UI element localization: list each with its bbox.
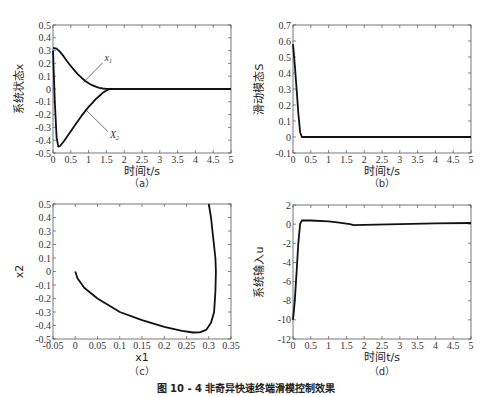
y-tick-label: -0.2 <box>35 293 51 304</box>
y-tick-label: -0.1 <box>275 148 291 159</box>
y-tick-label: -0.1 <box>35 96 51 107</box>
y-tick-label: 0.4 <box>279 68 292 79</box>
figure-caption: 图 10 - 4 非奇异快速终端滑模控制效果 <box>0 380 492 395</box>
y-tick-label: 0 <box>46 266 51 277</box>
y-tick-label: 0.6 <box>279 36 292 47</box>
y-tick-label: -0.4 <box>35 320 51 331</box>
y-tick-label: 0 <box>46 84 51 95</box>
y-tick-label: -12 <box>278 334 291 345</box>
y-tick-label: 0.2 <box>279 100 292 111</box>
x-tick-label: 0.3 <box>203 340 216 351</box>
y-tick-label: -0.5 <box>35 148 51 159</box>
x-tick-label: 4.5 <box>207 154 220 165</box>
x-tick-label: 1.5 <box>340 340 353 351</box>
x-tick-label: 3.5 <box>411 154 424 165</box>
y-tick-label: -0.3 <box>35 122 51 133</box>
series-u <box>293 220 471 320</box>
x-tick-label: 5 <box>469 154 474 165</box>
x-tick-label: 1 <box>326 340 331 351</box>
plot-frame <box>293 25 471 153</box>
y-tick-label: -6 <box>283 276 291 287</box>
y-tick-label: 0.2 <box>39 58 52 69</box>
y-axis-label: 滑动模态S <box>253 63 266 114</box>
x-tick-label: 2.5 <box>376 154 389 165</box>
y-tick-label: -8 <box>283 295 291 306</box>
x-tick-label: 4.5 <box>447 340 460 351</box>
x-tick-label: 2 <box>122 154 127 165</box>
x-axis-label: 时间t/s <box>364 351 400 364</box>
chart-c: -0.0500.050.10.150.20.250.30.35-0.5-0.4-… <box>13 199 240 378</box>
y-tick-label: 0.1 <box>39 253 52 264</box>
chart-a: 00.511.522.533.544.55-0.5-0.4-0.3-0.2-0.… <box>12 20 234 190</box>
y-tick-label: 0.3 <box>279 84 292 95</box>
x-axis-label: x1 <box>135 351 149 364</box>
figure-canvas: 00.511.522.533.544.55-0.5-0.4-0.3-0.2-0.… <box>0 0 492 397</box>
x-tick-label: 0 <box>291 340 296 351</box>
series-x1 <box>53 48 231 89</box>
y-tick-label: 0.1 <box>279 116 292 127</box>
x-tick-label: 0 <box>291 154 296 165</box>
x-tick-label: 0.2 <box>158 340 171 351</box>
x-tick-label: 4 <box>193 154 198 165</box>
annotation-label: X2 <box>109 129 119 141</box>
chart-b: 00.511.522.533.544.55-0.100.10.20.30.40.… <box>253 20 474 190</box>
x-tick-label: 0.15 <box>133 340 151 351</box>
subplot-label: （d） <box>369 366 395 377</box>
x-tick-label: 5 <box>469 340 474 351</box>
chart-d: 00.511.522.533.544.55-12-10-8-6-4-202时间t… <box>252 200 474 378</box>
y-tick-label: -0.5 <box>35 334 51 345</box>
y-tick-label: 0.5 <box>39 20 52 31</box>
x-tick-label: 3.5 <box>171 154 184 165</box>
subplot-label: （a） <box>129 178 155 189</box>
y-axis-label: 系统输入u <box>252 247 266 298</box>
annotation-leader <box>83 63 102 83</box>
x-tick-label: 5 <box>229 154 234 165</box>
x-tick-label: 4 <box>433 154 438 165</box>
y-tick-label: 0.3 <box>39 45 52 56</box>
x-tick-label: 0.05 <box>89 340 107 351</box>
annotation-label: x1 <box>104 52 112 64</box>
y-tick-label: -0.4 <box>35 135 51 146</box>
subplot-label: （c） <box>129 366 155 377</box>
y-tick-label: 0.5 <box>39 199 52 210</box>
y-tick-label: 0.1 <box>39 71 52 82</box>
y-tick-label: -0.3 <box>35 307 51 318</box>
x-tick-label: 4 <box>433 340 438 351</box>
x-tick-label: 3 <box>397 340 402 351</box>
x-tick-label: 3.5 <box>411 340 424 351</box>
x-tick-label: 0 <box>73 340 78 351</box>
x-axis-label: 时间t/s <box>364 165 400 178</box>
x-tick-label: 2.5 <box>136 154 149 165</box>
y-tick-label: -2 <box>283 238 291 249</box>
x-tick-label: 0.1 <box>114 340 127 351</box>
y-tick-label: 0.7 <box>279 20 292 31</box>
y-tick-label: 2 <box>286 200 291 211</box>
x-tick-label: 3 <box>397 154 402 165</box>
x-tick-label: 1.5 <box>340 154 353 165</box>
y-tick-label: 0.4 <box>39 212 52 223</box>
y-tick-label: -10 <box>278 314 291 325</box>
x-tick-label: 1.5 <box>100 154 113 165</box>
x-axis-label: 时间t/s <box>124 165 160 178</box>
series-X2 <box>53 51 231 147</box>
x-tick-label: 1 <box>86 154 91 165</box>
x-tick-label: 2 <box>362 340 367 351</box>
y-tick-label: 0.3 <box>39 226 52 237</box>
x-tick-label: 0 <box>51 154 56 165</box>
y-axis-label: x2 <box>13 265 26 279</box>
x-tick-label: 2 <box>362 154 367 165</box>
y-tick-label: 0.5 <box>279 52 292 63</box>
x-tick-label: 1 <box>326 154 331 165</box>
series-S <box>293 44 471 137</box>
y-tick-label: -4 <box>283 257 291 268</box>
y-tick-label: -0.2 <box>35 109 51 120</box>
y-tick-label: -0.1 <box>35 280 51 291</box>
x-tick-label: 0.5 <box>305 154 318 165</box>
y-tick-label: 0.2 <box>39 239 52 250</box>
y-axis-label: 系统状态x <box>12 63 26 114</box>
x-tick-label: 2.5 <box>376 340 389 351</box>
annotation-leader <box>87 111 108 132</box>
x-tick-label: 0.5 <box>305 340 318 351</box>
y-tick-label: 0 <box>286 219 291 230</box>
x-tick-label: 4.5 <box>447 154 460 165</box>
